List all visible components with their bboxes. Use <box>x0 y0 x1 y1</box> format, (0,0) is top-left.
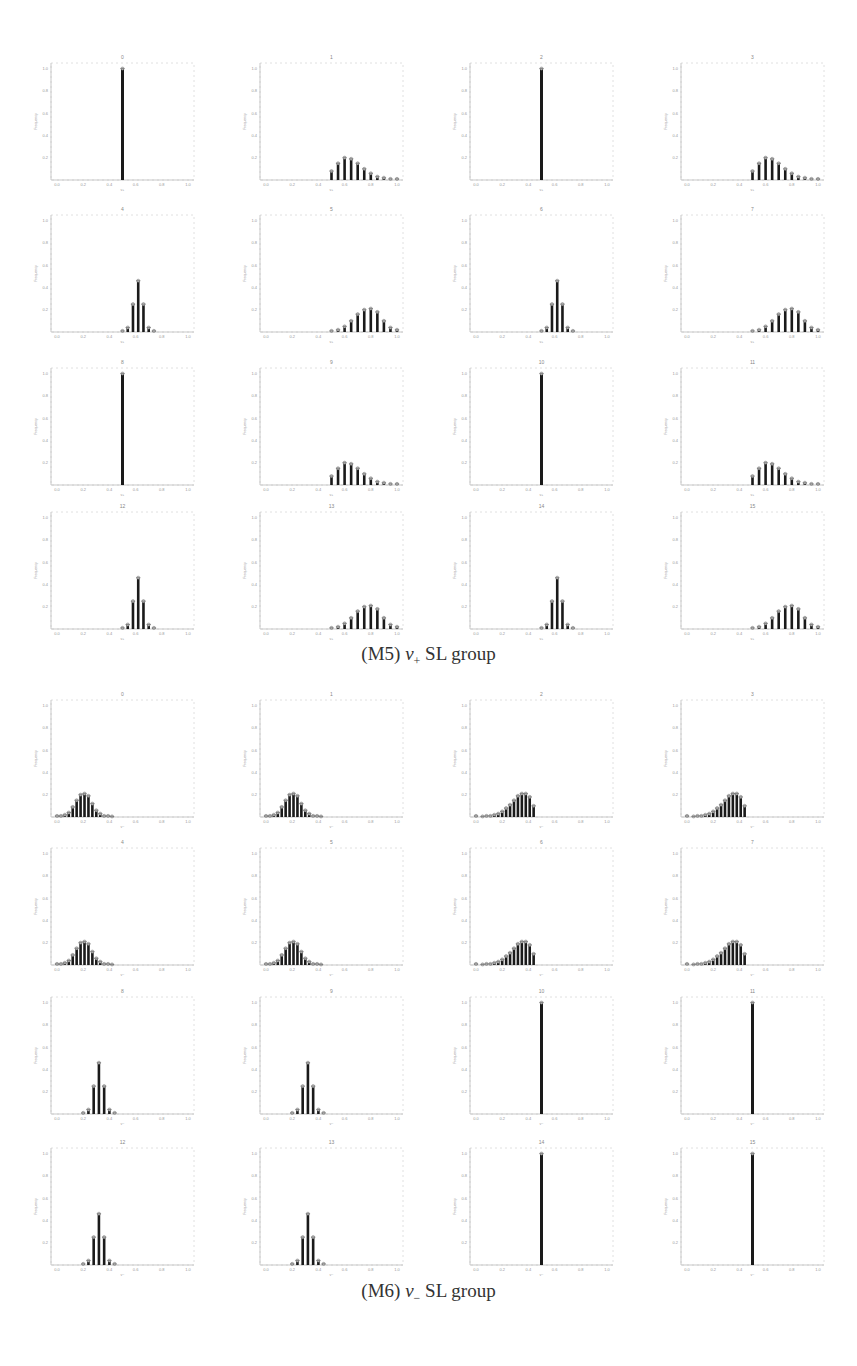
svg-text:1: 1 <box>330 54 333 60</box>
svg-text:0.0: 0.0 <box>473 819 479 824</box>
svg-text:0.4: 0.4 <box>737 182 743 187</box>
svg-text:0.8: 0.8 <box>42 537 48 542</box>
svg-text:v+: v+ <box>330 340 334 344</box>
svg-text:1: 1 <box>330 691 333 697</box>
subplot-m5-13: 130.20.40.60.81.00.00.20.40.60.81.0Frequ… <box>260 512 403 629</box>
svg-text:0.2: 0.2 <box>461 155 467 160</box>
svg-text:1.0: 1.0 <box>672 1000 678 1005</box>
svg-text:0.4: 0.4 <box>107 631 113 636</box>
svg-text:1.0: 1.0 <box>251 1000 257 1005</box>
svg-text:0.2: 0.2 <box>289 487 295 492</box>
svg-text:0.6: 0.6 <box>763 1267 769 1272</box>
svg-text:0.6: 0.6 <box>251 1196 257 1201</box>
svg-text:0.6: 0.6 <box>461 896 467 901</box>
svg-text:0.8: 0.8 <box>461 393 467 398</box>
svg-text:0.8: 0.8 <box>789 334 795 339</box>
svg-text:0.4: 0.4 <box>737 1116 743 1121</box>
svg-text:1.0: 1.0 <box>604 334 610 339</box>
svg-text:1.0: 1.0 <box>251 371 257 376</box>
svg-text:1.0: 1.0 <box>185 1116 191 1121</box>
svg-text:0.2: 0.2 <box>461 460 467 465</box>
svg-text:0.4: 0.4 <box>461 285 467 290</box>
subplot-m6-2: 20.20.40.60.81.00.00.20.40.60.81.0Freque… <box>470 700 613 817</box>
svg-text:0.4: 0.4 <box>461 582 467 587</box>
svg-text:0.0: 0.0 <box>684 631 690 636</box>
svg-text:0.0: 0.0 <box>54 487 60 492</box>
svg-text:v−: v− <box>540 1273 544 1277</box>
svg-text:0.2: 0.2 <box>710 182 716 187</box>
svg-text:v+: v+ <box>751 493 755 497</box>
svg-text:0.8: 0.8 <box>578 1116 584 1121</box>
svg-text:1.0: 1.0 <box>815 1267 821 1272</box>
svg-text:0.8: 0.8 <box>461 537 467 542</box>
svg-text:1.0: 1.0 <box>42 371 48 376</box>
svg-text:0.8: 0.8 <box>159 819 165 824</box>
svg-text:0.8: 0.8 <box>42 873 48 878</box>
svg-text:0.0: 0.0 <box>684 1267 690 1272</box>
svg-text:0.8: 0.8 <box>461 88 467 93</box>
svg-text:0.2: 0.2 <box>461 307 467 312</box>
svg-text:v−: v− <box>330 973 334 977</box>
svg-text:0.2: 0.2 <box>672 604 678 609</box>
svg-text:4: 4 <box>121 206 124 212</box>
svg-text:0.6: 0.6 <box>251 416 257 421</box>
svg-text:1.0: 1.0 <box>672 851 678 856</box>
subplot-m6-5: 50.20.40.60.81.00.00.20.40.60.81.0Freque… <box>260 848 403 965</box>
subplot-m6-12: 120.20.40.60.81.00.00.20.40.60.81.0Frequ… <box>51 1148 194 1265</box>
caption-rest: SL group <box>420 1280 495 1301</box>
svg-text:0.4: 0.4 <box>107 819 113 824</box>
svg-text:0.8: 0.8 <box>578 182 584 187</box>
svg-text:0.0: 0.0 <box>473 1116 479 1121</box>
svg-text:v−: v− <box>540 1122 544 1126</box>
svg-text:0.4: 0.4 <box>251 1218 257 1223</box>
svg-text:0.4: 0.4 <box>526 1116 532 1121</box>
svg-text:0.4: 0.4 <box>42 285 48 290</box>
svg-text:1.0: 1.0 <box>394 819 400 824</box>
svg-text:0.6: 0.6 <box>763 334 769 339</box>
svg-text:0.6: 0.6 <box>342 182 348 187</box>
svg-text:0.2: 0.2 <box>42 155 48 160</box>
svg-text:1.0: 1.0 <box>251 218 257 223</box>
svg-text:0.4: 0.4 <box>107 182 113 187</box>
svg-text:Frequency: Frequency <box>34 1198 38 1215</box>
svg-text:0.4: 0.4 <box>672 582 678 587</box>
svg-text:Frequency: Frequency <box>243 265 247 282</box>
svg-text:v−: v− <box>330 825 334 829</box>
svg-text:0.4: 0.4 <box>461 438 467 443</box>
svg-text:0.8: 0.8 <box>159 1116 165 1121</box>
svg-text:0.8: 0.8 <box>251 240 257 245</box>
svg-text:v−: v− <box>540 973 544 977</box>
svg-text:0.6: 0.6 <box>251 560 257 565</box>
svg-text:1.0: 1.0 <box>394 182 400 187</box>
svg-text:0.4: 0.4 <box>526 182 532 187</box>
svg-text:2: 2 <box>540 54 543 60</box>
svg-text:0.4: 0.4 <box>672 770 678 775</box>
svg-text:0.8: 0.8 <box>578 967 584 972</box>
svg-text:0.8: 0.8 <box>461 725 467 730</box>
svg-text:0.8: 0.8 <box>368 1116 374 1121</box>
svg-text:1.0: 1.0 <box>185 487 191 492</box>
svg-text:0.2: 0.2 <box>499 631 505 636</box>
svg-text:1.0: 1.0 <box>461 703 467 708</box>
svg-text:0.8: 0.8 <box>789 487 795 492</box>
svg-text:1.0: 1.0 <box>251 703 257 708</box>
subplot-m6-10: 100.20.40.60.81.00.00.20.40.60.81.0Frequ… <box>470 997 613 1114</box>
svg-text:Frequency: Frequency <box>243 750 247 767</box>
subplot-m6-4: 40.20.40.60.81.00.00.20.40.60.81.0Freque… <box>51 848 194 965</box>
svg-text:1.0: 1.0 <box>672 1151 678 1156</box>
svg-text:0.6: 0.6 <box>133 819 139 824</box>
svg-text:1.0: 1.0 <box>604 487 610 492</box>
svg-text:0.4: 0.4 <box>42 133 48 138</box>
svg-text:0.6: 0.6 <box>552 1116 558 1121</box>
svg-text:0.2: 0.2 <box>499 334 505 339</box>
svg-text:1.0: 1.0 <box>672 218 678 223</box>
svg-text:0.2: 0.2 <box>499 182 505 187</box>
subplot-m5-0: 00.20.40.60.81.00.00.20.40.60.81.0Freque… <box>51 63 194 180</box>
svg-text:v+: v+ <box>540 340 544 344</box>
svg-text:Frequency: Frequency <box>453 562 457 579</box>
subplot-m5-10: 100.20.40.60.81.00.00.20.40.60.81.0Frequ… <box>470 368 613 485</box>
svg-text:0.2: 0.2 <box>289 631 295 636</box>
svg-text:Frequency: Frequency <box>34 1047 38 1064</box>
svg-text:0.0: 0.0 <box>54 819 60 824</box>
svg-text:v−: v− <box>330 1273 334 1277</box>
